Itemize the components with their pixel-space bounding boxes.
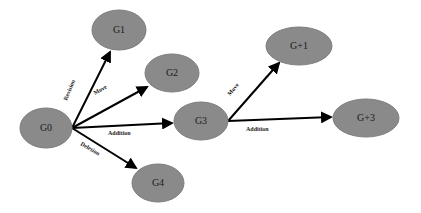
edge-label-revision: Revision — [62, 78, 76, 101]
node-label: G0 — [40, 122, 52, 133]
edge-label-addition-g3: Addition — [108, 130, 131, 136]
node-g1: G1 — [92, 10, 146, 50]
edge-label-move-g2: Move — [93, 83, 109, 96]
node-label: G+3 — [357, 112, 375, 123]
node-g3: G3 — [174, 102, 228, 140]
edge-g3-g1plus — [228, 63, 279, 121]
edge-g3-g3plus — [228, 117, 331, 121]
node-label: G1 — [113, 24, 125, 35]
node-label: G+1 — [290, 40, 308, 51]
edge-label-addition-g3plus: Addition — [246, 126, 269, 132]
diagram-canvas: Revision Move Addition Deletion Move Add… — [0, 0, 421, 213]
node-g-plus-1: G+1 — [266, 27, 332, 65]
edge-label-move-g1plus: Move — [226, 82, 240, 97]
node-g-plus-3: G+3 — [333, 99, 399, 137]
node-label: G4 — [152, 177, 164, 188]
node-g0: G0 — [20, 108, 72, 148]
edge-g0-g3 — [72, 123, 172, 128]
node-g2: G2 — [145, 54, 199, 92]
node-g4: G4 — [132, 164, 184, 202]
node-label: G2 — [166, 67, 178, 78]
node-label: G3 — [195, 115, 207, 126]
edge-label-deletion: Deletion — [80, 141, 102, 157]
